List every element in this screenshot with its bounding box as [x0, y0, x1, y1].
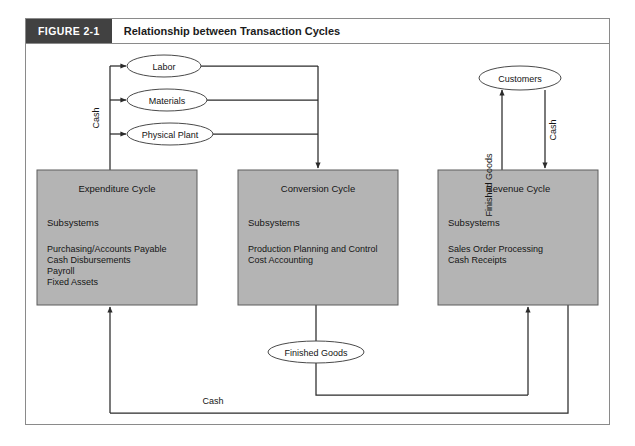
diagram-frame: [25, 43, 610, 425]
figure-title: Relationship between Transaction Cycles: [112, 19, 609, 43]
figure-caption-bar: FIGURE 2-1 Relationship between Transact…: [25, 18, 610, 43]
figure-number-label: FIGURE 2-1: [26, 19, 112, 43]
figure-root: FIGURE 2-1 Relationship between Transact…: [0, 0, 635, 446]
